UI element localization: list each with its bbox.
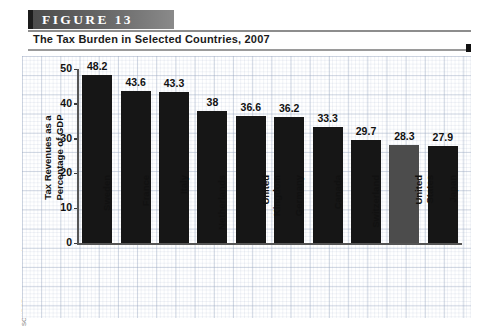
y-axis-line [77,69,79,244]
y-axis-title-line2: Percentage of GDP [53,114,64,200]
x-axis-category-label: Italy [179,175,190,249]
y-axis-tick-label: 20 [48,166,72,178]
x-axis-category-label: UnitedStates [414,175,435,249]
x-axis-category-label-line: Canada [332,175,343,209]
x-axis-category-label: France [141,175,152,249]
x-axis-category-label: UnitedKingdom [261,175,282,249]
x-axis-category-label-line: France [140,175,151,206]
y-axis-tick-label: 50 [48,62,72,74]
x-axis-category-label-line: Netherlands [216,175,227,230]
figure-container: FIGURE 13 The Tax Burden in Selected Cou… [0,0,481,329]
y-axis-title-line1: Tax Revenues as a [42,115,53,199]
bar-value-label: 48.2 [73,60,121,72]
y-axis-tick-label: 40 [48,97,72,109]
bar-chart: Tax Revenues as a Percentage of GDP 0102… [0,0,481,329]
x-axis-category-label: Sweden [102,175,113,249]
y-axis-tick-label: 30 [48,132,72,144]
y-axis-tick-label: 10 [48,201,72,213]
bar-value-label: 33.3 [304,112,352,124]
x-axis-category-label: Japan [448,175,459,249]
bar-value-label: 43.3 [150,77,198,89]
y-axis-tick-label: 0 [48,236,72,248]
bar-value-label: 27.9 [419,131,467,143]
x-axis-category-label: Switzerland [371,175,382,249]
x-axis-category-label-line: Kingdom [270,175,281,216]
x-axis-category-label-line: Sweden [101,175,112,211]
x-axis-category-label-line: Germany [293,175,304,216]
x-axis-category-label-line: Switzerland [370,175,381,228]
x-axis-category-label: Germany [294,175,305,249]
x-axis-category-label-line: Japan [447,175,458,202]
x-axis-category-label-line: United [260,175,271,205]
x-axis-category-label-line: Italy [178,175,189,194]
x-axis-category-label: Canada [333,175,344,249]
x-axis-category-label-line: States [424,175,435,204]
x-axis-category-label: Netherlands [217,175,228,249]
